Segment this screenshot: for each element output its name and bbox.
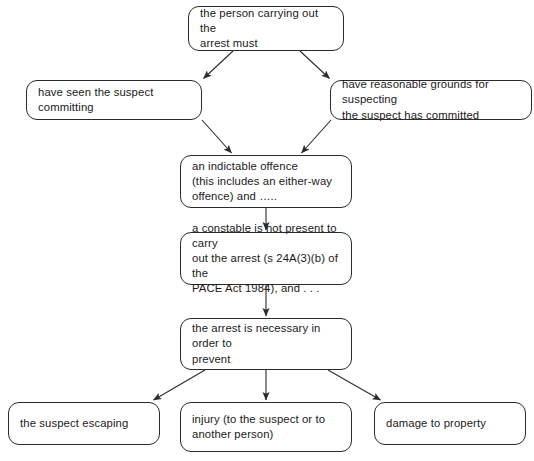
edge-reasonable-grounds-to-indictable bbox=[302, 120, 332, 153]
node-label: injury (to the suspect or to another per… bbox=[192, 412, 325, 442]
node-label: have seen the suspect committing bbox=[38, 85, 190, 115]
node-have-seen-suspect-committing: have seen the suspect committing bbox=[26, 80, 202, 120]
node-indictable-offence: an indictable offence (this includes an … bbox=[180, 155, 352, 208]
node-label: the arrest is necessary in order to prev… bbox=[192, 321, 340, 367]
node-label: the suspect escaping bbox=[20, 416, 128, 431]
flowchart-diagram: the person carrying out the arrest must … bbox=[0, 0, 534, 461]
node-label: an indictable offence (this includes an … bbox=[192, 159, 332, 205]
node-suspect-escaping: the suspect escaping bbox=[8, 402, 160, 445]
node-person-carrying-out-arrest: the person carrying out the arrest must bbox=[188, 6, 344, 51]
node-reasonable-grounds-suspecting: have reasonable grounds for suspecting t… bbox=[330, 80, 532, 120]
node-arrest-necessary: the arrest is necessary in order to prev… bbox=[180, 318, 352, 370]
edge-arrest-necessary-to-escaping bbox=[154, 370, 206, 400]
node-injury-to-suspect: injury (to the suspect or to another per… bbox=[180, 402, 352, 452]
edge-person-to-have-seen bbox=[204, 51, 234, 79]
edge-have-seen-to-indictable bbox=[202, 120, 232, 153]
node-damage-to-property: damage to property bbox=[374, 402, 526, 445]
node-constable-not-present: a constable is not present to carry out … bbox=[180, 232, 352, 285]
node-label: have reasonable grounds for suspecting t… bbox=[342, 77, 520, 123]
edge-person-to-reasonable-grounds bbox=[300, 51, 330, 79]
edge-arrest-necessary-to-damage bbox=[328, 370, 381, 400]
node-label: the person carrying out the arrest must bbox=[200, 6, 332, 52]
node-label: damage to property bbox=[386, 416, 486, 431]
node-label: a constable is not present to carry out … bbox=[192, 221, 340, 297]
